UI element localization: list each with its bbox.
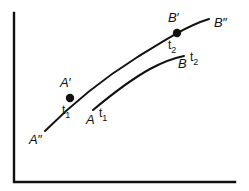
diagram-vector-layer <box>0 0 249 191</box>
label-base: B <box>178 56 187 71</box>
label-prime-marks: ″ <box>38 132 42 147</box>
diagram-canvas: A″A′t1At1B′t2B″Bt2 <box>0 0 249 191</box>
label-prime-marks: ′ <box>69 75 71 90</box>
label-B-double-prime: B″ <box>214 16 227 29</box>
label-t2-lower: t2 <box>190 50 198 67</box>
label-prime-marks: ″ <box>223 15 227 30</box>
curve-lower <box>93 56 184 110</box>
label-t1-lower: t1 <box>99 106 107 123</box>
label-base: A <box>86 112 95 127</box>
label-base: A <box>29 132 38 147</box>
label-base: A <box>60 75 69 90</box>
label-prime-marks: ′ <box>177 10 179 25</box>
axes-polyline <box>14 13 235 182</box>
label-base: B <box>168 10 177 25</box>
label-A-prime: A′ <box>60 76 71 89</box>
label-t2-upper: t2 <box>168 38 176 55</box>
label-B-prime: B′ <box>168 11 179 24</box>
axes-group <box>14 13 235 182</box>
label-t1-upper: t1 <box>62 103 70 120</box>
label-B: B <box>178 57 187 70</box>
label-subscript: 1 <box>102 113 107 123</box>
label-subscript: 2 <box>193 57 198 67</box>
label-subscript: 1 <box>65 110 70 120</box>
label-A-double-prime: A″ <box>29 133 42 146</box>
point-t2 <box>173 29 181 37</box>
point-t1 <box>66 94 74 102</box>
label-base: B <box>214 15 223 30</box>
label-subscript: 2 <box>171 45 176 55</box>
label-A: A <box>86 113 95 126</box>
